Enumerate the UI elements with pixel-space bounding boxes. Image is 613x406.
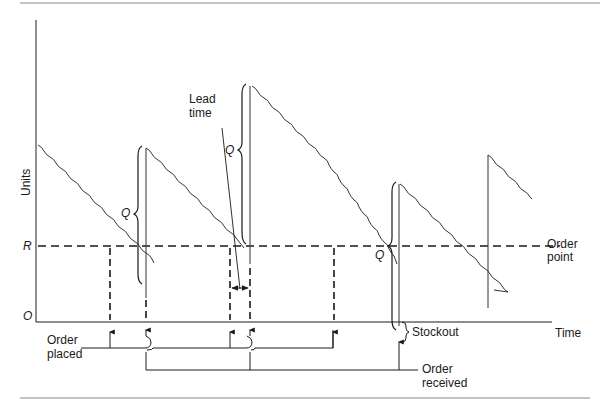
order-point-label-line1: Order	[547, 237, 578, 251]
order-point-label-line2: point	[547, 250, 574, 264]
order-received-label-line1: Order	[422, 362, 453, 376]
stockout-label: Stockout	[412, 325, 459, 339]
order-received-connector	[146, 330, 418, 370]
order-quantity-braces	[134, 84, 396, 330]
q-label-1: Q	[121, 206, 130, 220]
order-placed-label-line1: Order	[47, 333, 78, 347]
order-dashed-drops	[110, 248, 334, 320]
origin-label: O	[23, 309, 32, 323]
q-label-3: Q	[375, 248, 384, 262]
inventory-diagram: Q Q Q Stockout Lead time Order placed Or…	[0, 0, 613, 406]
lead-time-label-line1: Lead	[189, 92, 216, 106]
stockout-brace	[402, 322, 409, 342]
order-placed-connector	[81, 330, 333, 350]
inventory-level-curve	[38, 86, 532, 326]
y-axis-label: Units	[19, 169, 33, 196]
reorder-level-label: R	[23, 239, 32, 253]
lead-time-label-line2: time	[189, 106, 212, 120]
order-placed-label-line2: placed	[47, 347, 82, 361]
q-label-2: Q	[225, 143, 234, 157]
x-axis-label: Time	[555, 326, 582, 340]
order-received-label-line2: received	[422, 376, 467, 390]
